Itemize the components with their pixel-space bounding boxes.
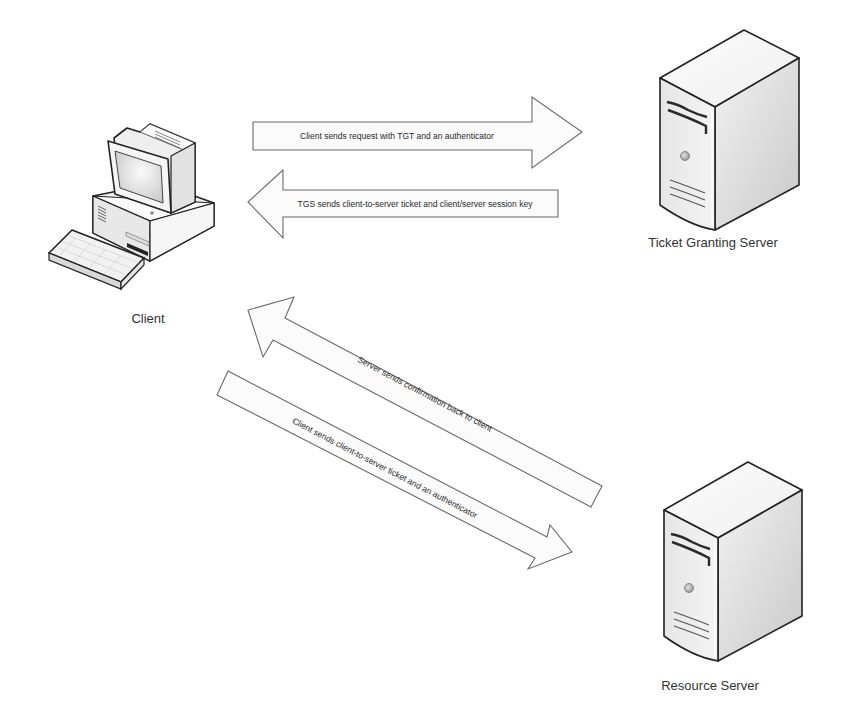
- client-node: Client: [49, 124, 214, 326]
- client-label: Client: [131, 311, 165, 326]
- arrow-client-to-tgs-label: Client sends request with TGT and an aut…: [300, 131, 494, 141]
- tower-server-icon: [664, 462, 802, 661]
- kerberos-diagram: Client Ticket Granting Server: [0, 0, 847, 716]
- desktop-computer-icon: [49, 124, 214, 289]
- resource-server-label: Resource Server: [661, 678, 759, 693]
- tower-server-icon: [660, 30, 799, 230]
- resource-server-node: Resource Server: [661, 462, 802, 693]
- ticket-granting-server-label: Ticket Granting Server: [648, 235, 778, 250]
- ticket-granting-server-node: Ticket Granting Server: [648, 30, 799, 250]
- arrow-client-to-tgs: Client sends request with TGT and an aut…: [253, 97, 582, 168]
- arrow-tgs-to-client-label: TGS sends client-to-server ticket and cl…: [298, 199, 534, 209]
- arrow-tgs-to-client: TGS sends client-to-server ticket and cl…: [248, 170, 558, 238]
